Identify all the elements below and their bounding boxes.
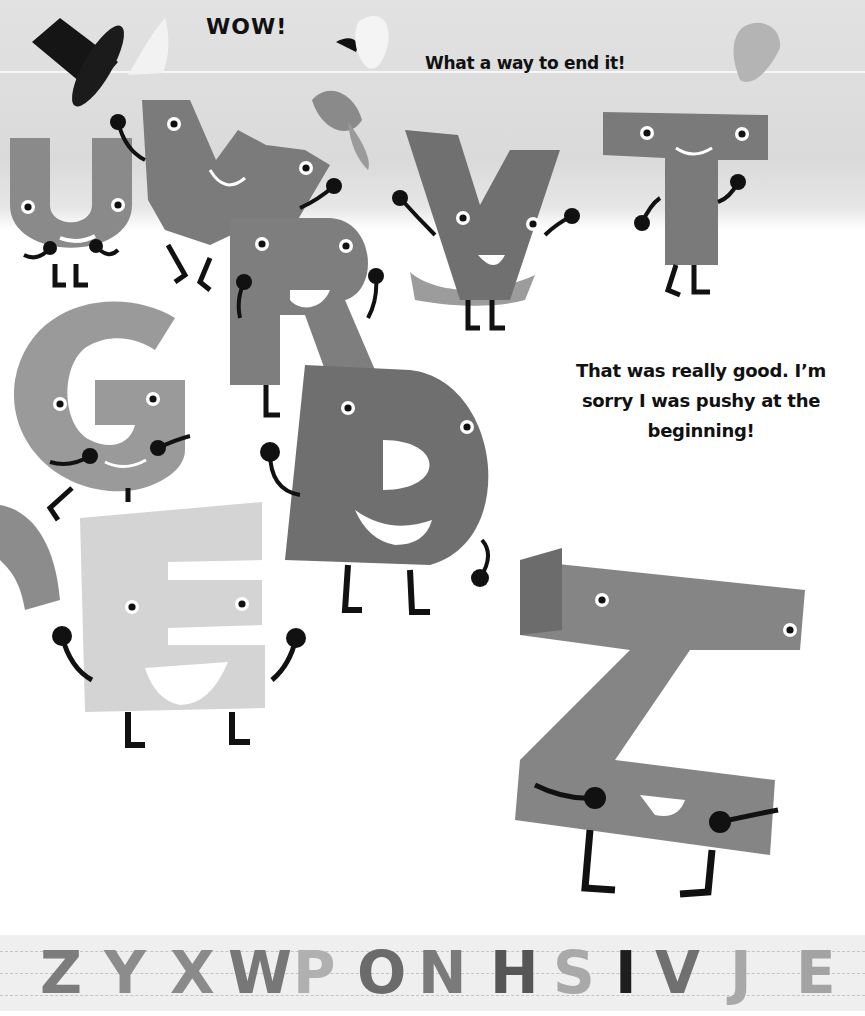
strip-letter-w: W <box>228 943 292 1003</box>
alphabet-strip: ZYXWPONHSIVJE <box>0 935 865 1011</box>
baseball-cap-icon <box>312 91 369 170</box>
letter-character-d <box>260 365 489 612</box>
strip-letter-p: P <box>293 943 336 1003</box>
strip-letter-y: Y <box>104 943 146 1003</box>
letter-character-u <box>10 138 132 285</box>
letter-character-t <box>603 112 768 295</box>
strip-letter-e: E <box>796 943 836 1003</box>
apology-speech-text: That was really good. I’m sorry I was pu… <box>570 356 832 446</box>
letter-character-g <box>14 302 190 520</box>
letter-characters-illustration <box>0 0 865 935</box>
strip-letter-o: O <box>357 943 406 1003</box>
strip-letter-z: Z <box>40 943 82 1003</box>
sailor-cap-icon <box>336 16 389 69</box>
end-line-caption: What a way to end it! <box>425 53 625 73</box>
strip-letter-i: I <box>615 943 637 1003</box>
white-bonnet-icon <box>128 18 169 75</box>
strip-letter-j: J <box>730 943 752 1003</box>
strip-letter-s: S <box>553 943 595 1003</box>
strip-letter-x: X <box>170 943 215 1003</box>
strip-letter-v: V <box>655 943 700 1003</box>
letter-character-e <box>0 502 306 745</box>
beanie-icon <box>734 23 781 82</box>
letter-character-z <box>515 548 805 894</box>
wow-exclamation: WOW! <box>206 14 287 39</box>
letter-character-v <box>392 130 580 328</box>
strip-letter-h: H <box>490 943 539 1003</box>
top-hat-icon <box>32 18 133 113</box>
strip-letter-n: N <box>418 943 467 1003</box>
alphabet-strip-letters: ZYXWPONHSIVJE <box>0 935 865 1011</box>
